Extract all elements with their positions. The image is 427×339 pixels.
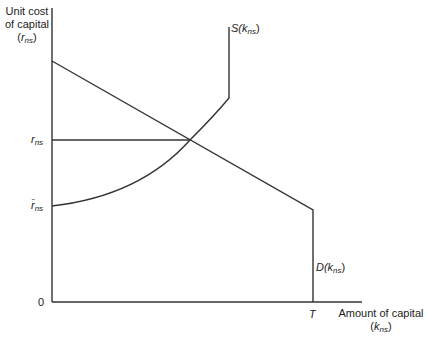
- x-axis-title-line1: Amount of capital: [333, 307, 427, 320]
- x-axis-title: Amount of capital (kns): [333, 307, 427, 336]
- supply-label-sub: ns: [248, 27, 256, 36]
- tick-r-ns: rns: [31, 133, 43, 149]
- demand-label-suffix: ): [342, 261, 346, 273]
- demand-label-sub: ns: [333, 266, 341, 275]
- y-axis-title-line2: of capital: [4, 18, 50, 31]
- demand-label-prefix: D(: [316, 261, 328, 273]
- tick-r-ns-sub: ns: [35, 138, 43, 147]
- demand-curve: [52, 61, 313, 302]
- x-var-sub: ns: [380, 325, 388, 334]
- x-axis-title-var: (kns): [333, 320, 427, 336]
- capital-market-diagram: [0, 0, 427, 339]
- supply-label: S(kns): [231, 22, 260, 38]
- demand-label: D(kns): [316, 261, 345, 277]
- y-axis-title: Unit cost of capital (rns): [4, 5, 50, 47]
- y-var-sub: ns: [25, 36, 33, 45]
- tick-rbar-ns: r̄ns: [31, 199, 43, 215]
- origin-label: 0: [38, 296, 44, 309]
- tick-rbar-ns-sub: ns: [35, 204, 43, 213]
- supply-curve: [52, 27, 229, 206]
- supply-label-prefix: S(: [231, 22, 242, 34]
- supply-label-suffix: ): [256, 22, 260, 34]
- y-axis-title-line1: Unit cost: [4, 5, 50, 18]
- tick-T: T: [309, 308, 316, 321]
- y-axis-title-var: (rns): [4, 31, 50, 47]
